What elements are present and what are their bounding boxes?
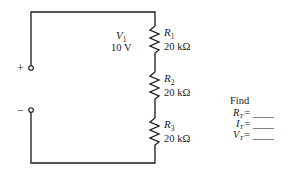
- positive-terminal: [29, 66, 34, 71]
- r3-label: R3: [163, 118, 175, 133]
- r1-value: 20 kΩ: [164, 41, 190, 52]
- r2-value: 20 kΩ: [164, 87, 190, 98]
- source-value: 10 V: [111, 42, 132, 53]
- resistor-r3-symbol: [31, 112, 159, 163]
- top-wire: [31, 12, 155, 68]
- positive-sign: +: [17, 61, 24, 75]
- circuit-diagram: + − V1 10 V R1 20 kΩ R2 20 kΩ R3 20 kΩ F…: [0, 0, 295, 173]
- r1-label: R1: [163, 26, 175, 41]
- find-title: Find: [230, 95, 250, 106]
- negative-terminal: [29, 108, 34, 113]
- r2-label: R2: [163, 72, 175, 87]
- find-vt: VT= ____: [233, 129, 275, 142]
- negative-sign: −: [17, 103, 24, 117]
- resistor-r2-symbol: [150, 72, 159, 118]
- resistor-r1-symbol: [150, 26, 159, 72]
- r3-value: 20 kΩ: [164, 133, 190, 144]
